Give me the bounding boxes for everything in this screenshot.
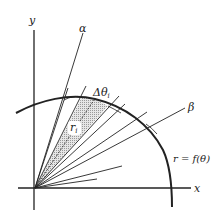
alpha-label: α	[79, 22, 87, 35]
shaded-sector	[35, 97, 108, 188]
beta-label: β	[187, 101, 194, 114]
radius-ri	[35, 100, 94, 188]
delta-theta-label: Δθi	[92, 86, 110, 100]
rays	[35, 33, 185, 188]
polar-area-diagram: y x α β Δθi ri r = f(θ)	[0, 0, 219, 222]
y-axis-label: y	[28, 14, 36, 27]
curve-label: r = f(θ)	[173, 153, 210, 164]
x-axis-label: x	[194, 182, 201, 195]
